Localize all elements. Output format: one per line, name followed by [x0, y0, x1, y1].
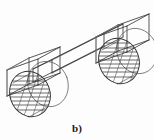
right-ribbed-cylinder — [91, 23, 154, 91]
figure-container: b) — [0, 0, 154, 140]
isometric-wireframe-diagram — [0, 0, 154, 140]
figure-caption: b) — [0, 122, 154, 134]
center-beam-edges — [33, 24, 123, 82]
